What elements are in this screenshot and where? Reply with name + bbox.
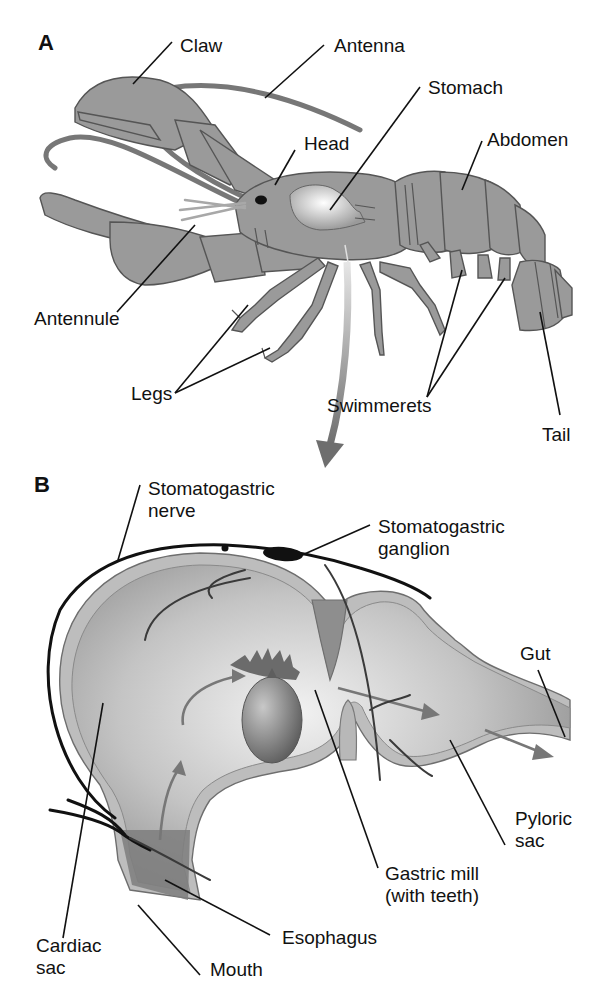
label-tail: Tail: [542, 424, 571, 445]
label-pyloric-sac-2: sac: [515, 830, 545, 851]
leader-antenna: [265, 45, 324, 98]
leader-claw: [133, 42, 172, 84]
label-stomach: Stomach: [428, 77, 503, 98]
label-stomatogastric-ganglion-1: Stomatogastric: [378, 516, 505, 537]
label-cardiac-sac-1: Cardiac: [36, 935, 101, 956]
zoom-arrow: [330, 262, 348, 445]
label-mouth: Mouth: [210, 959, 263, 980]
leader-legs-2: [175, 348, 270, 393]
panel-b: B: [34, 472, 572, 980]
label-abdomen: Abdomen: [487, 129, 568, 150]
label-stomatogastric-nerve-1: Stomatogastric: [148, 478, 275, 499]
label-swimmerets: Swimmerets: [327, 395, 432, 416]
label-pyloric-sac-1: Pyloric: [515, 808, 572, 829]
leader-stomatogastric-nerve: [118, 485, 140, 560]
leader-swimmerets-2: [427, 278, 505, 397]
eye: [255, 196, 267, 205]
leader-swimmerets-1: [427, 270, 462, 397]
lobster-stomach-diagram: A: [0, 0, 602, 1008]
label-stomatogastric-nerve-2: nerve: [148, 500, 196, 521]
label-gastric-mill-1: Gastric mill: [385, 863, 479, 884]
label-claw: Claw: [180, 35, 223, 56]
leader-mouth: [138, 905, 200, 975]
panel-a-label: A: [38, 30, 54, 55]
leader-stomatogastric-ganglion: [300, 525, 370, 556]
label-legs: Legs: [131, 383, 172, 404]
label-cardiac-sac-2: sac: [36, 957, 66, 978]
abdomen: [395, 171, 545, 266]
label-esophagus: Esophagus: [282, 927, 377, 948]
leader-esophagus: [165, 880, 270, 935]
label-stomatogastric-ganglion-2: ganglion: [378, 538, 450, 559]
label-antenna: Antenna: [334, 35, 405, 56]
label-antennule: Antennule: [34, 308, 120, 329]
label-gut: Gut: [520, 643, 551, 664]
nerve-node: [222, 545, 229, 552]
gastric-mill-ossicle: [242, 677, 302, 763]
label-head: Head: [304, 133, 349, 154]
leader-pyloric-sac: [450, 740, 505, 845]
label-gastric-mill-2: (with teeth): [385, 885, 479, 906]
panel-b-label: B: [34, 472, 50, 497]
panel-a: A: [34, 30, 572, 468]
leader-legs-1: [175, 305, 248, 393]
